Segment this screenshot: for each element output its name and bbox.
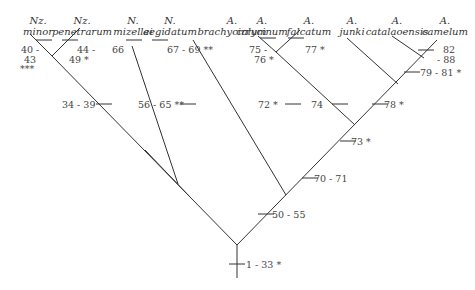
taxon-minor: Nz.minor [23, 15, 53, 37]
label-node-78: 78 * [384, 100, 404, 110]
label-node-74: 74 [311, 100, 323, 110]
taxon-falcatum: A.falcatum [287, 15, 331, 37]
taxon-camelum: A.camelum [422, 15, 468, 37]
taxon-aegidatum: N.aegidatum [143, 15, 197, 37]
taxon-calycinum: A.calycinum [236, 15, 288, 37]
label-aegidatum: 67 - 69 ** [167, 45, 213, 55]
cladogram-tree [0, 0, 475, 290]
label-penetrarum-b: 49 * [69, 55, 89, 65]
label-minor-c: *** [20, 64, 34, 74]
label-calycinum-b: 76 * [254, 55, 274, 65]
label-node-50: 50 - 55 [272, 210, 305, 220]
label-node-72: 72 * [258, 100, 278, 110]
taxon-catalaoensis: A.catalaoensis [366, 15, 429, 37]
label-node-nz: 34 - 39 [62, 100, 95, 110]
label-node-79: 79 - 81 * [420, 68, 461, 78]
label-falcatum: 77 * [305, 45, 325, 55]
label-node-n: 56 - 65 ** [138, 100, 184, 110]
taxon-junki: A.junki [339, 15, 364, 37]
taxon-penetrarum: Nz.penetrarum [52, 15, 112, 37]
label-root: 1 - 33 * [246, 260, 281, 270]
label-node-73: 73 * [351, 137, 371, 147]
label-camelum-b: - 88 [437, 55, 455, 65]
label-mizellei: 66 [112, 45, 124, 55]
label-node-70: 70 - 71 [314, 174, 347, 184]
